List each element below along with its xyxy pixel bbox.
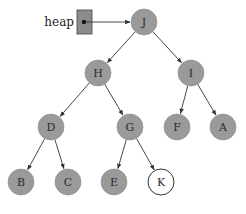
node-label: E (110, 176, 118, 189)
edge-D-C (55, 139, 64, 168)
edges (28, 32, 216, 170)
edge-G-E (118, 139, 126, 168)
node-A: A (210, 114, 236, 140)
edge-J-I (153, 32, 182, 63)
heap-tree-diagram: heap JHIDGFABCEK (0, 0, 246, 214)
edge-I-A (198, 84, 216, 115)
node-label: J (141, 16, 146, 29)
node-F: F (164, 114, 190, 140)
node-label: D (47, 121, 56, 134)
node-label: A (218, 121, 228, 134)
node-B: B (8, 169, 34, 195)
node-H: H (85, 60, 111, 86)
node-label: C (64, 176, 72, 189)
node-E: E (101, 169, 127, 195)
edge-H-D (60, 83, 89, 117)
nodes: JHIDGFABCEK (8, 9, 236, 195)
edge-H-G (105, 84, 123, 115)
node-label: B (17, 176, 25, 189)
node-J: J (131, 9, 157, 35)
node-G: G (117, 114, 143, 140)
node-label: K (157, 176, 166, 189)
heap-pointer: heap (44, 10, 130, 34)
heap-label: heap (44, 15, 74, 29)
node-label: I (189, 67, 193, 80)
node-D: D (38, 114, 64, 140)
edge-I-F (181, 86, 188, 114)
node-K: K (148, 169, 174, 195)
node-C: C (55, 169, 81, 195)
edge-D-B (28, 138, 45, 169)
node-label: G (126, 121, 135, 134)
node-I: I (178, 60, 204, 86)
node-label: H (93, 67, 103, 80)
node-label: F (173, 121, 181, 134)
edge-J-H (107, 32, 135, 63)
edge-G-K (136, 138, 154, 169)
